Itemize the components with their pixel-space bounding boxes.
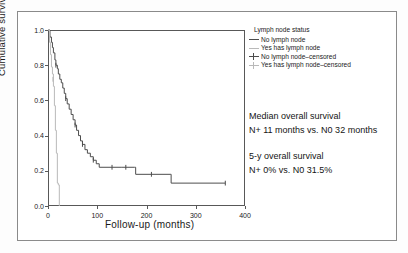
legend-line-icon bbox=[248, 44, 261, 52]
median-survival-value: N+ 11 months vs. N0 32 months bbox=[249, 124, 397, 138]
survival-curve bbox=[48, 30, 225, 183]
legend-censored-cross-icon bbox=[248, 53, 261, 61]
five-year-survival-heading: 5-y overall survival bbox=[249, 150, 397, 164]
legend-item-label: Yes has lymph node–censored bbox=[261, 61, 351, 69]
legend-item-no-lymph-node-censored: No lymph node–censored bbox=[248, 53, 393, 62]
legend-item-no-lymph-node: No lymph node bbox=[248, 35, 393, 44]
survival-chart-figure: Cumulative survival Follow-up (months) 0… bbox=[0, 0, 408, 253]
legend-item-yes-lymph-node-censored: Yes has lymph node–censored bbox=[248, 61, 393, 70]
legend-censored-cross-icon bbox=[248, 61, 261, 69]
five-year-survival-value: N+ 0% vs. N0 31.5% bbox=[249, 164, 397, 178]
median-survival-heading: Median overall survival bbox=[249, 110, 397, 124]
legend-line-icon bbox=[248, 36, 261, 44]
survival-curve bbox=[48, 30, 59, 206]
legend-item-label: Yes has lymph node bbox=[261, 44, 320, 52]
annotation-spacer bbox=[249, 137, 397, 150]
legend-title: Lymph node status bbox=[254, 26, 393, 33]
legend-item-yes-lymph-node: Yes has lymph node bbox=[248, 44, 393, 53]
legend-item-label: No lymph node–censored bbox=[261, 53, 336, 61]
annotation-block: Median overall survival N+ 11 months vs.… bbox=[249, 110, 397, 177]
legend: Lymph node status No lymph node Yes has … bbox=[248, 26, 393, 70]
legend-item-label: No lymph node bbox=[261, 36, 305, 44]
